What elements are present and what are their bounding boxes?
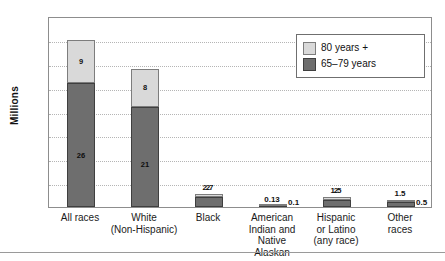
bar-value-label-80-plus: 8	[131, 84, 159, 92]
legend-swatch-80-plus-icon	[303, 42, 316, 55]
gridline	[49, 185, 431, 186]
chart-figure: Millions 4035302520151050 926821 All rac…	[0, 0, 445, 261]
legend-label: 80 years +	[321, 43, 368, 53]
bar-value-label-80-plus: 0.1	[288, 199, 299, 207]
stacked-bar[interactable]	[195, 194, 223, 207]
bar-value-label-65-79: 2	[178, 184, 238, 192]
legend-label: 65–79 years	[321, 59, 376, 69]
stacked-bar[interactable]: 926	[67, 40, 95, 207]
bar-segment-80-plus[interactable]	[195, 194, 223, 197]
gridline	[49, 114, 431, 115]
bar-total-label: 1.5	[370, 190, 430, 198]
bar-value-label-65-79: 1.5	[306, 187, 366, 195]
stacked-bar[interactable]: 821	[131, 69, 159, 207]
legend-item: 65–79 years	[303, 56, 418, 72]
x-axis-label-line: races	[355, 224, 445, 236]
x-axis-label-line: Other	[355, 212, 445, 224]
chart-legend: 80 years + 65–79 years	[296, 34, 425, 78]
bar-value-label-80-plus: 9	[67, 58, 95, 66]
bar-value-label-65-79: 21	[131, 161, 159, 169]
gridline	[49, 161, 431, 162]
x-axis-label-line: (Non-Hispanic)	[99, 224, 189, 236]
stacked-bar[interactable]	[323, 197, 351, 207]
bar-segment-65-79[interactable]	[323, 200, 351, 207]
gridline	[49, 90, 431, 91]
x-axis-label-line: (any race)	[291, 235, 381, 247]
bar-segment-80-plus[interactable]	[259, 204, 287, 206]
legend-item: 80 years +	[303, 40, 418, 56]
bar-segment-80-plus[interactable]	[323, 197, 351, 199]
x-axis-label: Otherraces	[355, 212, 445, 235]
gridline	[49, 137, 431, 138]
bar-segment-65-79[interactable]	[67, 83, 95, 207]
stacked-bar[interactable]	[259, 206, 287, 207]
bar-value-label-65-79: 26	[67, 152, 95, 160]
figure-bottom-rule	[0, 252, 445, 253]
bar-segment-65-79[interactable]	[131, 107, 159, 207]
bar-segment-80-plus[interactable]	[387, 200, 415, 202]
stacked-bar[interactable]	[387, 200, 415, 207]
bar-segment-65-79[interactable]	[387, 202, 415, 207]
legend-swatch-65-79-icon	[303, 58, 316, 71]
bar-value-label-80-plus: 0.5	[416, 199, 427, 207]
bar-segment-65-79[interactable]	[195, 197, 223, 207]
